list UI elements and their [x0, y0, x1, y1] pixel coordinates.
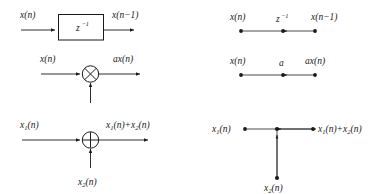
unit-delay-block-diagram: x(n) z −1 x(n−1)	[19, 10, 138, 40]
adder-flow-source-label-1: x1(n)	[211, 124, 231, 135]
multiplier-flow-branch-label: a	[279, 58, 284, 68]
adder-input-label-2: x2(n)	[77, 177, 97, 188]
unit-delay-flow-branch-base: z	[275, 14, 280, 24]
adder-flow-graph: x1(n) x1(n)+x2(n) x2(n)	[211, 124, 362, 194]
unit-delay-operator-base: z	[75, 23, 80, 33]
adder-flow-node-source-2	[275, 176, 279, 180]
adder-block-diagram: x1(n) x1(n)+x2(n) x2(n)	[19, 120, 150, 188]
unit-delay-input-label: x(n)	[19, 10, 35, 21]
unit-delay-output-label: x(n−1)	[111, 10, 138, 21]
adder-flow-source-label-2: x2(n)	[263, 183, 283, 194]
unit-delay-flow-sink-label: x(n−1)	[310, 12, 337, 23]
unit-delay-flow-node-sink	[313, 29, 317, 33]
unit-delay-flow-source-label: x(n)	[229, 12, 245, 23]
multiplier-flow-graph: x(n) a ax(n)	[229, 56, 325, 77]
unit-delay-operator-exponent: −1	[82, 20, 90, 27]
multiplier-flow-node-source	[239, 73, 243, 77]
figure-canvas: x(n) z −1 x(n−1) x(n) ax(n) x1(n)	[0, 0, 379, 194]
unit-delay-flow-graph: x(n) z −1 x(n−1)	[229, 12, 337, 33]
multiplier-output-label: ax(n)	[113, 54, 133, 65]
adder-flow-sink-label: x1(n)+x2(n)	[317, 124, 362, 135]
unit-delay-flow-node-middle	[281, 29, 285, 33]
multiplier-input-label: x(n)	[39, 54, 55, 65]
multiplier-flow-source-label: x(n)	[229, 56, 245, 67]
multiplier-flow-node-middle	[281, 73, 285, 77]
adder-flow-node-source-1	[243, 127, 247, 131]
adder-input-label-1: x1(n)	[19, 120, 39, 131]
unit-delay-box	[59, 15, 104, 41]
unit-delay-flow-node-source	[239, 29, 243, 33]
adder-flow-node-sink	[311, 127, 315, 131]
multiplier-block-diagram: x(n) ax(n)	[39, 54, 140, 103]
adder-output-label: x1(n)+x2(n)	[105, 120, 150, 131]
multiplier-flow-sink-label: ax(n)	[305, 56, 325, 67]
unit-delay-flow-branch-exponent: −1	[281, 12, 289, 19]
multiplier-flow-node-sink	[313, 73, 317, 77]
adder-flow-node-junction	[275, 127, 279, 131]
